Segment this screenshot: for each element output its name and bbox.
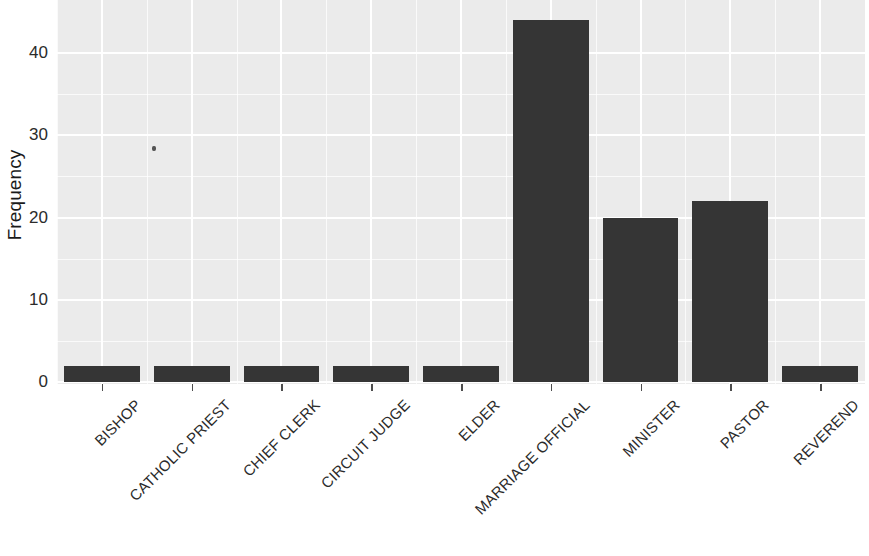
gridline-major-vertical bbox=[819, 0, 821, 384]
x-tick-label: MINISTER bbox=[619, 396, 683, 460]
gridline-minor-vertical bbox=[326, 0, 327, 384]
x-tick-label: CHIEF CLERK bbox=[240, 396, 324, 480]
y-tick-label: 20 bbox=[29, 208, 48, 228]
bar bbox=[692, 201, 768, 382]
x-tick-mark bbox=[102, 384, 104, 391]
gridline-major-vertical bbox=[101, 0, 103, 384]
y-tick-label: 40 bbox=[29, 43, 48, 63]
bar bbox=[64, 366, 140, 382]
x-tick-mark bbox=[551, 384, 553, 391]
gridline-minor-vertical bbox=[57, 0, 58, 384]
bar bbox=[333, 366, 409, 382]
y-axis-tick-labels: 010203040 bbox=[22, 0, 48, 390]
x-tick-label: CATHOLIC PRIEST bbox=[125, 396, 233, 504]
x-tick-mark bbox=[641, 384, 643, 391]
x-tick-label: BISHOP bbox=[91, 396, 144, 449]
bar-chart: Frequency 010203040 BISHOPCATHOLIC PRIES… bbox=[0, 0, 869, 556]
gridline-major-vertical bbox=[191, 0, 193, 384]
plot-panel bbox=[57, 0, 865, 384]
x-tick-label: REVEREND bbox=[790, 396, 862, 468]
x-tick-mark bbox=[820, 384, 822, 391]
bar bbox=[782, 366, 858, 382]
x-tick-mark bbox=[192, 384, 194, 391]
gridline-minor-vertical bbox=[147, 0, 148, 384]
x-axis-tick-labels: BISHOPCATHOLIC PRIESTCHIEF CLERKCIRCUIT … bbox=[0, 392, 869, 556]
gridline-major-vertical bbox=[370, 0, 372, 384]
x-tick-label: CIRCUIT JUDGE bbox=[318, 396, 414, 492]
y-tick-label: 0 bbox=[39, 372, 48, 392]
bar bbox=[513, 20, 589, 382]
x-tick-label: PASTOR bbox=[717, 396, 773, 452]
image-artifact-speck bbox=[152, 146, 156, 151]
gridline-minor-vertical bbox=[416, 0, 417, 384]
bar bbox=[423, 366, 499, 382]
gridline-major-vertical bbox=[460, 0, 462, 384]
bar bbox=[603, 218, 679, 383]
x-tick-label: ELDER bbox=[455, 396, 503, 444]
gridline-minor-vertical bbox=[506, 0, 507, 384]
x-tick-mark bbox=[371, 384, 373, 391]
x-tick-mark bbox=[730, 384, 732, 391]
y-tick-label: 10 bbox=[29, 290, 48, 310]
gridline-minor-vertical bbox=[775, 0, 776, 384]
x-tick-mark bbox=[461, 384, 463, 391]
gridline-major-vertical bbox=[280, 0, 282, 384]
y-tick-label: 30 bbox=[29, 125, 48, 145]
gridline-minor-vertical bbox=[237, 0, 238, 384]
x-tick-mark bbox=[281, 384, 283, 391]
bar bbox=[244, 366, 320, 382]
gridline-minor-vertical bbox=[596, 0, 597, 384]
x-axis-tick-marks bbox=[57, 384, 865, 392]
gridline-minor-vertical bbox=[685, 0, 686, 384]
bar bbox=[154, 366, 230, 382]
